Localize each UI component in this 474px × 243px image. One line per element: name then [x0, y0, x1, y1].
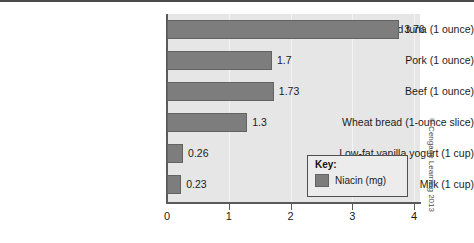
legend-entry-label: Niacin (mg) [335, 175, 386, 186]
x-tick-label-4: 4 [404, 210, 424, 222]
x-tick-label-1: 1 [219, 210, 239, 222]
bar-value-label: 0.23 [186, 169, 206, 200]
bar-value-label: 0.26 [188, 138, 208, 169]
bar-row: Pork (1 ounce)1.7 [0, 45, 474, 76]
bar-5 [167, 144, 183, 163]
legend-entry-niacin: Niacin (mg) [315, 174, 407, 187]
top-divider-rule [0, 0, 474, 2]
bar-1 [167, 20, 399, 39]
bar-row: Beef (1 ounce)1.73 [0, 76, 474, 107]
bar-value-label: 1.7 [277, 45, 292, 76]
x-tick-1 [229, 203, 230, 210]
bar-4 [167, 113, 247, 132]
niacin-bar-chart-figure: Canned tuna (1 ounce)3.76Pork (1 ounce)1… [0, 0, 474, 243]
x-tick-label-2: 2 [281, 210, 301, 222]
category-label: Pork (1 ounce) [314, 45, 474, 76]
x-tick-label-0: 0 [157, 210, 177, 222]
bar-6 [167, 175, 181, 194]
copyright-credit: © Cengage Learning 2013 [427, 118, 436, 212]
bar-row: Canned tuna (1 ounce)3.76 [0, 14, 474, 45]
x-axis-line [166, 202, 421, 204]
legend-color-swatch [315, 174, 329, 187]
bar-value-label: 1.3 [252, 107, 267, 138]
x-tick-4 [414, 203, 415, 210]
x-tick-2 [291, 203, 292, 210]
x-tick-label-3: 3 [342, 210, 362, 222]
x-tick-3 [352, 203, 353, 210]
bar-value-label: 1.73 [279, 76, 299, 107]
category-label: Wheat bread (1-ounce slice) [314, 107, 474, 138]
bar-3 [167, 82, 274, 101]
bar-value-label: 3.76 [404, 14, 424, 45]
bar-2 [167, 51, 272, 70]
legend-title: Key: [315, 159, 407, 171]
chart-legend: Key: Niacin (mg) [307, 155, 408, 197]
category-label: Beef (1 ounce) [314, 76, 474, 107]
bar-row: Wheat bread (1-ounce slice)1.3 [0, 107, 474, 138]
